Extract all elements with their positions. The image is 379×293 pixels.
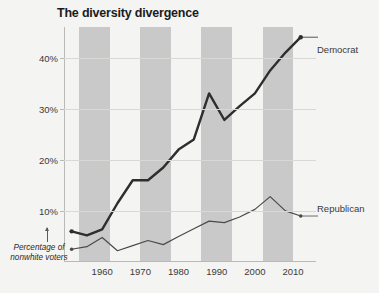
x-axis-label: 1970 bbox=[130, 266, 151, 277]
x-axis-label: 1980 bbox=[168, 266, 189, 277]
series-line-democrat bbox=[72, 37, 301, 235]
series-label-republican: Republican bbox=[317, 203, 365, 214]
x-axis-label: 2010 bbox=[283, 266, 304, 277]
gridline bbox=[64, 109, 316, 110]
y-axis-tick bbox=[60, 211, 64, 212]
annotation-arrow-icon bbox=[47, 228, 48, 242]
chart-root: The diversity divergence 10%20%30%40%196… bbox=[0, 0, 379, 293]
y-axis-label: 30% bbox=[39, 103, 58, 114]
annotation-line-1: Percentage of bbox=[14, 243, 65, 252]
x-axis-label: 1990 bbox=[206, 266, 227, 277]
y-axis-tick bbox=[60, 58, 64, 59]
x-axis-label: 1960 bbox=[92, 266, 113, 277]
x-axis-label: 2000 bbox=[244, 266, 265, 277]
series-endpoint-marker bbox=[70, 247, 74, 251]
y-axis-label: 20% bbox=[39, 154, 58, 165]
series-lines bbox=[64, 27, 316, 262]
chart-title: The diversity divergence bbox=[57, 6, 199, 20]
annotation-note: Percentage of nonwhite voters bbox=[8, 243, 70, 264]
annotation-line-2: nonwhite voters bbox=[10, 253, 67, 262]
y-axis-tick bbox=[60, 160, 64, 161]
gridline bbox=[64, 58, 316, 59]
plot-area: 10%20%30%40%196019701980199020002010 bbox=[64, 27, 316, 262]
series-endpoint-marker bbox=[69, 229, 73, 233]
y-axis-tick bbox=[60, 109, 64, 110]
gridline bbox=[64, 160, 316, 161]
y-axis-label: 40% bbox=[39, 52, 58, 63]
series-label-democrat: Democrat bbox=[317, 44, 358, 55]
gridline bbox=[64, 211, 316, 212]
y-axis-label: 10% bbox=[39, 205, 58, 216]
